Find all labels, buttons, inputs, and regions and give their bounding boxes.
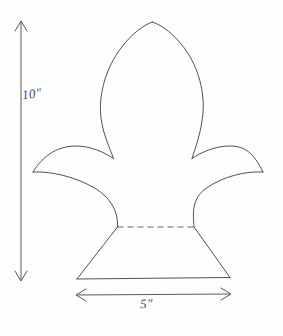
width-arrow-shaft bbox=[77, 294, 230, 295]
width-dimension-label: 5" bbox=[140, 296, 154, 312]
height-dimension-label: 10" bbox=[21, 85, 43, 104]
height-dimension-arrow bbox=[15, 21, 27, 281]
right-lobe-lower-edge bbox=[193, 172, 263, 227]
base-left-side bbox=[77, 227, 118, 279]
base-right-side bbox=[194, 227, 230, 278]
drawing-canvas: 10" 5" bbox=[0, 0, 283, 336]
fleur-de-lis-outline bbox=[33, 22, 263, 279]
fleur-de-lis-drawing bbox=[0, 0, 283, 336]
left-lobe-upper-edge bbox=[33, 146, 114, 172]
left-lobe-lower-edge bbox=[33, 172, 118, 227]
petal-right-edge bbox=[153, 22, 204, 159]
right-lobe-upper-edge bbox=[192, 146, 263, 172]
base-bottom-edge bbox=[77, 278, 230, 280]
petal-left-edge bbox=[100, 22, 152, 159]
width-dimension-arrow bbox=[76, 288, 231, 301]
